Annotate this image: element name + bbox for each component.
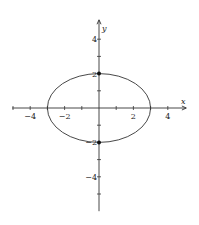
data-point	[97, 72, 101, 76]
y-tick-label: −4	[85, 173, 97, 182]
y-tick-label: 4	[92, 35, 97, 44]
x-tick-label: −2	[59, 112, 71, 121]
y-tick-label: 2	[92, 70, 97, 79]
x-tick-label: −4	[24, 112, 36, 121]
y-tick-label: −2	[85, 138, 97, 147]
y-axis-label: y	[101, 24, 107, 33]
ellipse-plot: −4−22442−2−4 x y	[0, 0, 199, 225]
data-point	[97, 140, 101, 144]
x-tick-label: 4	[165, 112, 170, 121]
x-axis-label: x	[181, 97, 186, 106]
x-tick-label: 2	[131, 112, 136, 121]
